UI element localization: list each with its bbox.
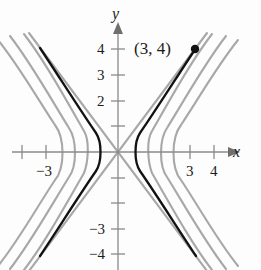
x-tick-label-3: 3 xyxy=(186,164,194,179)
y-axis-arrow-icon xyxy=(113,22,123,34)
x-tick-label-neg3: −3 xyxy=(36,164,52,179)
y-tick-label-neg4: −4 xyxy=(89,247,105,262)
hyperbola-figure: x y (3, 4) 4 3 2 −3 −4 −3 3 4 xyxy=(0,0,261,270)
hyperbola-curve-gray-3-left xyxy=(0,40,63,266)
y-tick-label-neg3: −3 xyxy=(89,222,105,237)
y-tick-label-4: 4 xyxy=(97,42,105,57)
x-axis-label: x xyxy=(233,144,240,160)
x-tick-label-4: 4 xyxy=(210,164,218,179)
y-tick-label-2: 2 xyxy=(97,94,105,109)
point-marker-3-4 xyxy=(191,45,199,53)
y-tick-label-3: 3 xyxy=(97,68,105,83)
y-axis-label: y xyxy=(112,6,119,22)
plot-canvas xyxy=(0,0,261,270)
annotation-point-label: (3, 4) xyxy=(134,40,171,57)
